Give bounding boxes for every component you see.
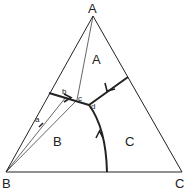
point-label-a: a <box>35 115 40 124</box>
point-label-d: d <box>91 102 95 111</box>
vertex-label-b: B <box>2 176 11 191</box>
boundary-d-bc <box>89 105 107 172</box>
point-label-c: c <box>78 94 82 103</box>
triangle-outline <box>6 16 182 172</box>
vertex-label-a: A <box>88 1 97 16</box>
region-label-b: B <box>53 134 62 149</box>
vertex-label-c: C <box>175 176 184 191</box>
region-label-c: C <box>125 134 134 149</box>
region-label-a: A <box>92 52 101 67</box>
ternary-diagram: A B C A B C a b c d <box>0 0 190 194</box>
tie-line-b-c <box>6 100 77 172</box>
tie-line-a-c <box>77 16 93 100</box>
point-label-b: b <box>62 87 67 96</box>
